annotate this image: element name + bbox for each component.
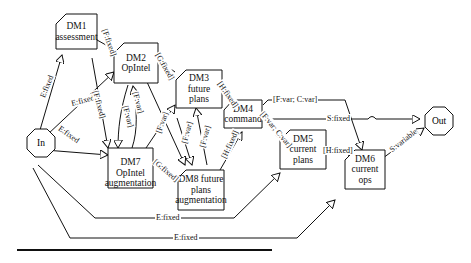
node-label: current — [290, 144, 317, 155]
node-label: OpIntel — [121, 63, 150, 74]
bottom-rule — [17, 249, 272, 251]
node-dm8-future-plans-augmentation: DM8 future plans augmentation — [178, 170, 224, 210]
node-label: DM7 OpIntel — [108, 157, 153, 178]
node-label: plans — [189, 94, 209, 105]
node-dm6-current-ops: DM6 current ops — [345, 150, 385, 189]
node-label: DM3 — [189, 73, 209, 84]
node-dm3-future-plans: DM3 future plans — [176, 70, 222, 108]
node-label: DM2 — [126, 53, 146, 64]
edge-label-in-dm6: E:fixed — [173, 233, 199, 242]
node-label: augmentation — [175, 195, 227, 206]
node-label: ops — [358, 175, 371, 186]
node-label: command — [224, 114, 261, 125]
node-label: assessment — [55, 32, 97, 43]
node-label: current — [352, 164, 379, 175]
node-label: plans — [293, 155, 313, 166]
edge-label-dm4-dm6: [F:var; C:var] — [272, 95, 318, 104]
node-label: DM1 — [66, 21, 86, 32]
node-dm2-opintel: DM2 OpIntel — [114, 43, 158, 83]
node-label: DM8 future — [178, 174, 223, 185]
node-label: future — [188, 84, 211, 95]
node-label: DM5 — [293, 134, 313, 145]
node-dm7-opintel-augmentation: DM7 OpIntel augmentation — [108, 148, 153, 188]
edge-label-dm4-out: S:fixed — [326, 114, 351, 123]
node-dm1-assessment: DM1 assessment — [56, 14, 97, 49]
diagram-canvas: In Out DM1 assessment DM2 OpIntel DM3 fu… — [0, 0, 471, 263]
node-label: augmentation — [105, 178, 157, 189]
node-label: plans — [191, 185, 211, 196]
edge-label-dm5-dm6: [H:fixed] — [322, 146, 354, 155]
node-label: DM6 — [355, 154, 375, 165]
edge-label-in-dm5: E:fixed — [155, 213, 181, 222]
